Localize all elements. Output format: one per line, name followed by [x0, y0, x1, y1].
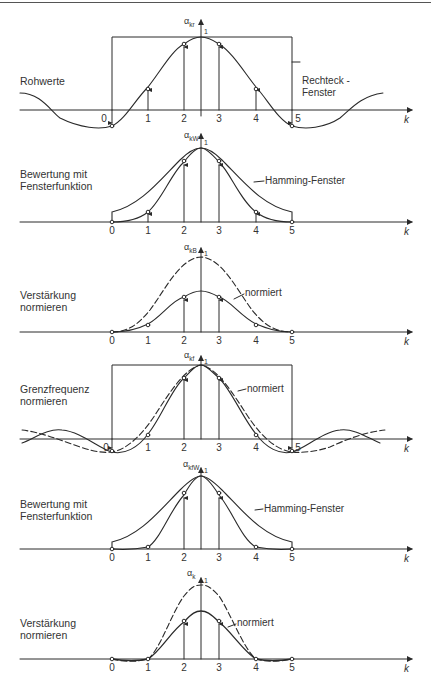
panel-1-tick-0: 0 — [98, 113, 110, 124]
panel-4-tick-4: 4 — [250, 442, 262, 453]
panel-5-tick-5: 5 — [286, 552, 298, 563]
panel-3-tick-2: 2 — [178, 335, 190, 346]
panel-1-tick-5: 5 — [292, 113, 304, 124]
panel-3-tick-0: 0 — [106, 335, 118, 346]
panel-1-plot — [20, 20, 412, 128]
panel-6-tick-4: 4 — [250, 662, 262, 673]
panel-5-tick-2: 2 — [178, 552, 190, 563]
panel-6-plot — [20, 578, 412, 661]
panel-5-peak-label: 1 — [204, 467, 208, 474]
panel-6-tick-2: 2 — [178, 662, 190, 673]
panel-6-y-axis-label: αk — [187, 568, 195, 580]
panel-2-y-axis-label: αkW — [184, 130, 199, 142]
panel-6-tick-0: 0 — [106, 662, 118, 673]
panel-4-x-axis-label: k — [404, 443, 409, 454]
panel-3-peak-label: 1 — [204, 250, 208, 257]
panel-5-label: Bewertung mit Fensterfunktion — [20, 498, 92, 522]
panel-5-tick-1: 1 — [142, 552, 154, 563]
panel-4-tick-2: 2 — [178, 442, 190, 453]
panel-3-annotation: normiert — [245, 287, 282, 299]
panel-5-x-axis-label: k — [404, 553, 409, 564]
panel-6-label: Verstärkung normieren — [20, 617, 76, 641]
panel-4-tick-3: 3 — [213, 442, 225, 453]
panel-2-tick-4: 4 — [250, 225, 262, 236]
panel-3-plot — [20, 248, 412, 334]
panel-5-tick-0: 0 — [106, 552, 118, 563]
panel-6-tick-5: 5 — [286, 662, 298, 673]
panel-4-tick-0: 0 — [100, 442, 112, 453]
panel-5-tick-4: 4 — [250, 552, 262, 563]
panel-2-annotation: Hamming-Fenster — [265, 175, 345, 187]
panel-2-tick-0: 0 — [106, 225, 118, 236]
panel-1-annotation: Rechteck - Fenster — [302, 75, 350, 99]
panel-1-peak-label: 1 — [204, 28, 208, 35]
panel-6-peak-label: 1 — [204, 577, 208, 584]
panel-1-x-axis-label: k — [404, 114, 409, 125]
panel-4-peak-label: 1 — [204, 358, 208, 365]
panel-1-tick-2: 2 — [178, 113, 190, 124]
panel-4-annotation: normiert — [247, 383, 284, 395]
panel-6-annotation: normiert — [237, 617, 274, 629]
panel-2-tick-1: 1 — [142, 225, 154, 236]
panel-1-y-axis-label: αkr — [184, 16, 195, 28]
panel-2-tick-3: 3 — [213, 225, 225, 236]
panel-3-tick-5: 5 — [286, 335, 298, 346]
panel-5-annotation: Hamming-Fenster — [264, 503, 344, 515]
panel-4-tick-5: 5 — [292, 442, 304, 453]
panel-3-tick-3: 3 — [213, 335, 225, 346]
panel-3-tick-4: 4 — [250, 335, 262, 346]
panel-2-tick-2: 2 — [178, 225, 190, 236]
panel-4-tick-1: 1 — [142, 442, 154, 453]
panel-5-tick-3: 3 — [213, 552, 225, 563]
panel-1-tick-1: 1 — [142, 113, 154, 124]
panel-2-x-axis-label: k — [404, 226, 409, 237]
panel-3-tick-1: 1 — [142, 335, 154, 346]
panel-6-x-axis-label: k — [404, 663, 409, 674]
panel-1-tick-3: 3 — [213, 113, 225, 124]
panel-3-x-axis-label: k — [404, 336, 409, 347]
panel-4-label: Grenzfrequenz normieren — [20, 383, 89, 407]
panel-2-tick-5: 5 — [286, 225, 298, 236]
panel-2-peak-label: 1 — [204, 139, 208, 146]
panel-6-tick-3: 3 — [213, 662, 225, 673]
panel-1-tick-4: 4 — [250, 113, 262, 124]
panel-2-label: Bewertung mit Fensterfunktion — [20, 168, 92, 192]
panel-4-y-axis-label: αkf — [184, 350, 194, 362]
panel-3-label: Verstärkung normieren — [20, 289, 76, 313]
panel-5-y-axis-label: αkfW — [183, 459, 199, 471]
panel-3-y-axis-label: αkB — [184, 242, 197, 254]
panel-1-label: Rohwerte — [20, 75, 65, 87]
panel-6-tick-1: 1 — [142, 662, 154, 673]
